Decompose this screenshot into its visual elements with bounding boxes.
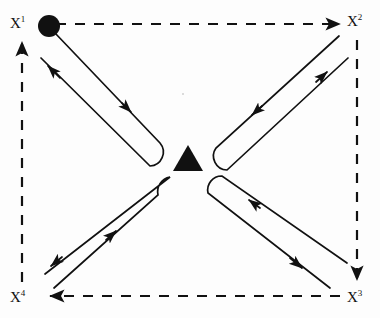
node-label-x2-base: X [347, 13, 358, 29]
node-label-x3-base: X [347, 289, 358, 305]
scan-speck [182, 93, 184, 95]
node-label-x3: X3 [347, 288, 362, 306]
node-marker-x1-circle [38, 15, 60, 37]
node-label-x2-superscript: 2 [358, 12, 363, 22]
diagonal-loop-x1 [41, 33, 163, 166]
diagonal-loop-x2 [213, 36, 348, 170]
diagonal-loop-x4 [45, 177, 170, 288]
node-label-x1-superscript: 1 [21, 14, 26, 24]
center-triangle-marker [173, 145, 203, 171]
node-label-x3-superscript: 3 [358, 288, 363, 298]
figure-root: X1 X2 X3 X4 [0, 0, 380, 318]
node-label-x2: X2 [347, 12, 362, 30]
node-label-x4-superscript: 4 [21, 288, 26, 298]
node-label-x4: X4 [10, 288, 25, 306]
diagonal-loop-x3 [208, 176, 347, 288]
node-label-x1: X1 [10, 14, 25, 32]
node-label-x4-base: X [10, 289, 21, 305]
node-label-x1-base: X [10, 15, 21, 31]
diagram-canvas [0, 0, 380, 318]
